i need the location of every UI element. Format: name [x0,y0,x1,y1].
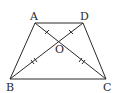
diagonal-bd [10,23,83,79]
vertex-label-d: D [80,10,89,23]
side-dc [83,23,106,79]
vertex-label-a: A [29,10,39,23]
intersection-label-o: O [55,43,64,56]
vertex-label-c: C [103,81,111,93]
side-ab [10,23,35,79]
trapezoid-diagram: A D B C O [0,0,117,93]
vertex-label-b: B [6,81,14,93]
